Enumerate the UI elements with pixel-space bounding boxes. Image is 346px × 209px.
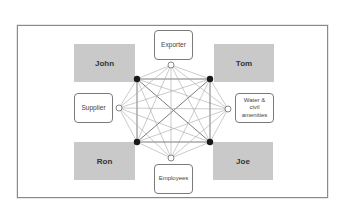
edge-joe-employees <box>171 142 210 158</box>
node-tom <box>207 76 213 82</box>
edge-john-water <box>137 79 228 109</box>
edge-ron-supplier <box>119 108 137 142</box>
edge-joe-supplier <box>119 108 210 142</box>
edge-ron-water <box>137 109 228 142</box>
edge-water-employees <box>171 109 228 158</box>
edge-joe-water <box>210 109 228 142</box>
edge-tom-supplier <box>119 79 210 108</box>
edge-supplier-water <box>119 108 228 109</box>
edge-ron-employees <box>137 142 171 158</box>
node-john <box>134 76 140 82</box>
node-water <box>225 106 231 112</box>
network-graph <box>0 0 346 209</box>
edge-john-supplier <box>119 79 137 108</box>
edge-exporter-water <box>171 65 228 109</box>
edge-john-employees <box>137 79 171 158</box>
edge-tom-water <box>210 79 228 109</box>
node-exporter <box>168 62 174 68</box>
node-employees <box>168 155 174 161</box>
edge-joe-exporter <box>171 65 210 142</box>
node-supplier <box>116 105 122 111</box>
edge-supplier-employees <box>119 108 171 158</box>
nodes <box>116 62 231 161</box>
node-joe <box>207 139 213 145</box>
node-ron <box>134 139 140 145</box>
